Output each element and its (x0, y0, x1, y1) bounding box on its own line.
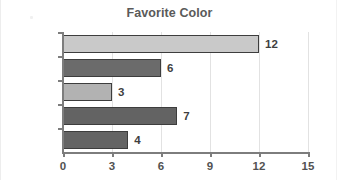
y-tick (58, 104, 63, 106)
gridline (259, 32, 260, 152)
bar-chart: Favorite Color CyanPurpleGreenRedBlue 12… (0, 0, 337, 180)
value-label-red: 7 (183, 110, 189, 122)
value-label-blue: 4 (134, 134, 140, 146)
y-axis-line (62, 32, 64, 153)
x-tick-label-12: 12 (253, 160, 266, 172)
value-label-cyan: 12 (265, 38, 278, 50)
bar-purple[interactable] (63, 59, 161, 77)
x-tick (63, 152, 65, 157)
x-axis-line (62, 152, 309, 154)
bar-blue[interactable] (63, 131, 128, 149)
value-label-green: 3 (118, 86, 124, 98)
chart-title: Favorite Color (1, 6, 337, 20)
x-tick (112, 152, 114, 157)
x-tick (308, 152, 310, 157)
x-tick-label-0: 0 (60, 160, 66, 172)
x-tick (161, 152, 163, 157)
x-tick (259, 152, 261, 157)
gridline (308, 32, 309, 152)
value-label-purple: 6 (167, 62, 173, 74)
x-tick-label-6: 6 (158, 160, 164, 172)
bar-red[interactable] (63, 107, 177, 125)
image-artifact-speck (30, 16, 33, 19)
plot-area (63, 32, 308, 152)
x-tick (210, 152, 212, 157)
y-tick (58, 56, 63, 58)
y-tick (58, 128, 63, 130)
x-tick-label-9: 9 (207, 160, 213, 172)
x-tick-label-15: 15 (302, 160, 315, 172)
bar-green[interactable] (63, 83, 112, 101)
y-tick (58, 80, 63, 82)
y-tick (58, 32, 63, 34)
x-tick-label-3: 3 (109, 160, 115, 172)
bar-cyan[interactable] (63, 35, 259, 53)
